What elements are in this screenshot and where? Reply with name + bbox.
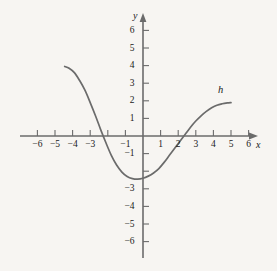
y-tick-label: 4: [126, 61, 138, 71]
y-tick-label: −4: [121, 202, 138, 212]
y-tick-label: −5: [121, 220, 138, 230]
x-tick-label: 2: [172, 140, 184, 150]
x-tick-label: 6: [243, 140, 255, 150]
plot-canvas: [0, 0, 277, 271]
y-axis-label: y: [133, 11, 137, 21]
x-tick-label: −3: [82, 140, 98, 150]
curve-label-h: h: [218, 85, 223, 96]
x-tick-label: −4: [65, 140, 81, 150]
x-tick-label: −6: [29, 140, 45, 150]
graph-figure: −6 −5 −4 −3 −1 1 2 3 4 5 6 6 5 4 3 2 1 −…: [0, 0, 277, 271]
y-tick-label: 6: [126, 26, 138, 36]
x-tick-label: −5: [47, 140, 63, 150]
x-tick-label: 5: [225, 140, 237, 150]
y-tick-label: −6: [121, 237, 138, 247]
x-tick-label: 1: [155, 140, 167, 150]
y-tick-label: 1: [126, 114, 138, 124]
x-tick-label: 3: [190, 140, 202, 150]
x-tick-label: 4: [207, 140, 219, 150]
y-tick-label: 5: [126, 44, 138, 54]
y-tick-label: 3: [126, 79, 138, 89]
y-tick-label: 2: [126, 96, 138, 106]
x-axis-label: x: [256, 140, 260, 150]
y-tick-label: −1: [121, 149, 138, 159]
y-tick-label: −3: [121, 184, 138, 194]
